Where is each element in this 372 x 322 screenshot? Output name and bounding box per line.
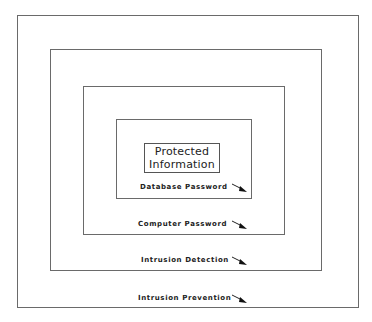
arrow-down-right-icon xyxy=(231,293,249,305)
label-computer-password: Computer Password xyxy=(138,220,227,228)
protected-information-box: Protected Information xyxy=(144,143,220,173)
label-database-password: Database Password xyxy=(140,183,228,191)
core-label-line2: Information xyxy=(149,158,215,171)
label-intrusion-detection: Intrusion Detection xyxy=(141,256,229,264)
arrow-down-right-icon xyxy=(231,182,249,194)
arrow-down-right-icon xyxy=(231,219,249,231)
arrow-down-right-icon xyxy=(231,255,249,267)
core-label-line1: Protected xyxy=(155,145,209,158)
label-intrusion-prevention: Intrusion Prevention xyxy=(138,294,231,302)
